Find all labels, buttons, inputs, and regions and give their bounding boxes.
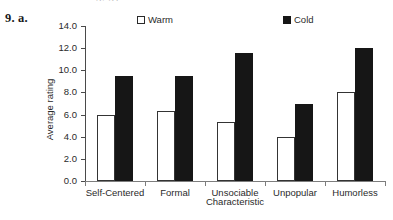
y-axis-tick-label: 2.0 — [64, 153, 77, 164]
x-axis-tick — [85, 181, 86, 186]
y-axis-line — [85, 26, 86, 182]
y-axis-tick: 8.0 — [81, 92, 85, 93]
bar-warm-self-centered — [97, 115, 115, 181]
y-axis-tick: 4.0 — [81, 137, 85, 138]
y-axis-tick: 6.0 — [81, 115, 85, 116]
y-axis-title: Average rating — [44, 60, 55, 160]
bar-cold-humorless — [355, 48, 373, 181]
y-axis-tick-label: 6.0 — [64, 109, 77, 120]
legend-entry-warm: Warm — [137, 14, 173, 25]
x-axis-title: Characteristic — [85, 196, 385, 207]
y-axis-tick: 10.0 — [81, 70, 85, 71]
bar-cold-self-centered — [115, 76, 133, 181]
y-axis-tick: 14.0 — [81, 26, 85, 27]
legend-label-warm: Warm — [148, 14, 173, 25]
x-axis-tick — [325, 181, 326, 186]
y-axis-tick-label: 14.0 — [59, 20, 78, 31]
y-axis-tick-label: 4.0 — [64, 131, 77, 142]
item-number-label: 9. a. — [5, 11, 28, 26]
figure-container: gy g p 9. a. Warm Cold Average rating 0.… — [0, 0, 393, 220]
bar-warm-humorless — [337, 92, 355, 181]
x-axis-tick — [265, 181, 266, 186]
plot-area: 0.02.04.06.08.010.012.014.0 Self-Centere… — [85, 26, 385, 181]
y-axis-tick: 12.0 — [81, 48, 85, 49]
y-axis-tick-label: 8.0 — [64, 86, 77, 97]
x-axis-line — [85, 181, 385, 182]
legend-label-cold: Cold — [294, 14, 314, 25]
y-axis-tick-label: 12.0 — [59, 42, 78, 53]
legend-entry-cold: Cold — [283, 14, 314, 25]
y-axis-tick-label: 10.0 — [59, 64, 78, 75]
bar-warm-unsociable — [217, 122, 235, 181]
x-axis-tick — [205, 181, 206, 186]
bar-cold-formal — [175, 76, 193, 181]
bar-cold-unsociable — [235, 53, 253, 181]
page-bleed-text: gy g p — [96, 0, 336, 1]
y-axis-tick: 2.0 — [81, 159, 85, 160]
bar-warm-unpopular — [277, 137, 295, 181]
x-axis-tick — [145, 181, 146, 186]
legend-swatch-cold-icon — [283, 16, 291, 24]
legend-swatch-warm-icon — [137, 16, 145, 24]
y-axis-tick-label: 0.0 — [64, 175, 77, 186]
x-axis-tick — [385, 181, 386, 186]
bar-warm-formal — [157, 111, 175, 181]
bar-cold-unpopular — [295, 104, 313, 182]
